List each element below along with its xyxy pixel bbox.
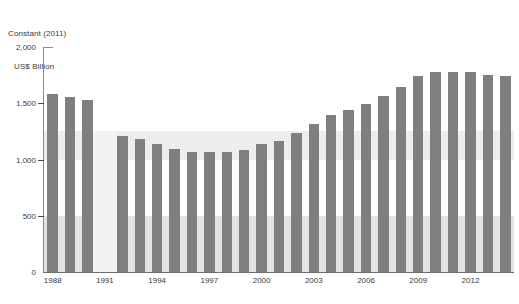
bar — [82, 100, 92, 272]
bar — [117, 136, 127, 272]
y-axis-tick — [38, 160, 44, 161]
x-axis-line — [43, 272, 514, 273]
bar — [169, 149, 179, 272]
bar — [222, 152, 232, 272]
x-axis-tick-label: 2009 — [409, 276, 427, 285]
y-axis-tick-label: 1,000 — [2, 156, 36, 165]
bar — [430, 72, 440, 272]
x-axis-tick-label: 1988 — [44, 276, 62, 285]
bar — [483, 75, 493, 272]
bar — [256, 144, 266, 272]
y-axis-labels: 05001,0001,5002,000 — [0, 0, 36, 304]
x-axis-tick-label: 2000 — [253, 276, 271, 285]
x-axis-tick-label: 1991 — [96, 276, 114, 285]
bar — [378, 96, 388, 272]
x-axis-tick-label: 1997 — [200, 276, 218, 285]
bar — [65, 97, 75, 272]
bar — [448, 72, 458, 272]
bar — [204, 152, 214, 272]
y-axis-tick — [38, 103, 44, 104]
x-axis-tick-label: 2003 — [305, 276, 323, 285]
x-axis-tick-label: 1994 — [148, 276, 166, 285]
y-axis-tick-label: 0 — [2, 268, 36, 277]
bar — [239, 150, 249, 272]
bar — [326, 115, 336, 272]
y-axis-tick-label: 500 — [2, 212, 36, 221]
bar — [465, 72, 475, 272]
x-axis-labels: 198819911994199720002003200620092012 — [44, 276, 514, 292]
missing-data-block — [93, 131, 117, 272]
plot-area — [44, 47, 514, 272]
y-axis-tick-label: 2,000 — [2, 43, 36, 52]
bar — [413, 76, 423, 272]
chart-screenshot: Constant (2011) US$ Billion 05001,0001,5… — [0, 0, 519, 304]
bar — [396, 87, 406, 272]
x-axis-tick-label: 2012 — [462, 276, 480, 285]
bar — [291, 133, 301, 272]
bar — [343, 110, 353, 272]
y-axis-tick — [38, 216, 44, 217]
bar — [500, 76, 510, 272]
bar — [47, 94, 57, 272]
bar — [274, 141, 284, 272]
x-axis-tick-label: 2006 — [357, 276, 375, 285]
axis-top-cap — [43, 47, 53, 48]
bar — [152, 144, 162, 272]
bar — [135, 139, 145, 272]
y-axis-tick-label: 1,500 — [2, 99, 36, 108]
bar — [361, 104, 371, 272]
bar — [309, 124, 319, 272]
bar — [187, 152, 197, 272]
